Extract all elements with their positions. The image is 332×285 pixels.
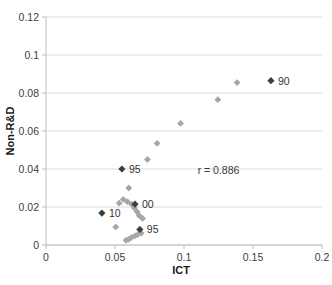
- data-point-label: 00: [142, 198, 154, 210]
- labeled-points-group: [98, 77, 274, 233]
- y-tick-label: 0.08: [19, 87, 40, 99]
- x-axis-title: ICT: [172, 264, 190, 276]
- data-point: [125, 185, 132, 192]
- x-tick-label: 0.2: [315, 251, 330, 263]
- x-tick-label: 0.15: [243, 251, 264, 263]
- y-tick-label: 0.02: [19, 201, 40, 213]
- data-point-label: 95: [147, 223, 159, 235]
- data-point-label: 90: [278, 75, 290, 87]
- data-point: [154, 140, 161, 147]
- data-point: [112, 224, 119, 231]
- y-tick-label: 0.06: [19, 125, 40, 137]
- y-tick-label: 0.12: [19, 11, 40, 23]
- data-point: [177, 120, 184, 127]
- data-point-label: 10: [109, 207, 121, 219]
- scatter-chart: 00.020.040.060.080.10.12 00.050.10.150.2…: [0, 0, 332, 285]
- chart-canvas: 00.020.040.060.080.10.12 00.050.10.150.2…: [0, 0, 332, 285]
- annotations-group: r = 0.886: [198, 164, 240, 176]
- y-tick-labels: 00.020.040.060.080.10.12: [19, 11, 40, 251]
- x-tick-labels: 00.050.10.150.2: [43, 251, 329, 263]
- axes-group: [42, 17, 322, 249]
- gridlines-group: [46, 17, 322, 245]
- data-point: [234, 79, 241, 86]
- data-point: [118, 165, 125, 172]
- y-tick-label: 0.1: [24, 49, 39, 61]
- unlabeled-points-group: [112, 79, 240, 244]
- data-point: [267, 77, 274, 84]
- x-tick-label: 0.05: [105, 251, 126, 263]
- data-point: [214, 96, 221, 103]
- x-tick-label: 0: [43, 251, 49, 263]
- data-point-label: 95: [129, 163, 141, 175]
- y-axis-title: Non-R&D: [4, 107, 16, 156]
- y-tick-label: 0.04: [19, 163, 40, 175]
- data-point: [98, 209, 105, 216]
- correlation-annotation: r = 0.886: [198, 164, 240, 176]
- data-point: [144, 156, 151, 163]
- x-tick-label: 0.1: [177, 251, 192, 263]
- y-tick-label: 0: [33, 239, 39, 251]
